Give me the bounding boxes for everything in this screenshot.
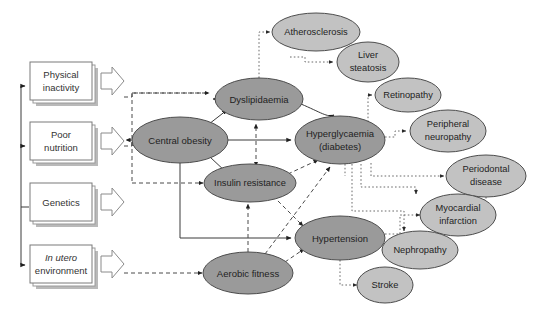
edge-insulin-resistance-to-hypertension: [273, 196, 303, 226]
node-label: Stroke: [372, 280, 399, 290]
ellipse-shape: [410, 110, 486, 152]
node-hyperglycaemia-diabetes[interactable]: Hyperglycaemia (diabetes): [295, 116, 385, 164]
risk-factor-label-line1: Genetics: [42, 197, 80, 208]
node-label-line1: Periodontal: [462, 164, 509, 174]
edge-physical-inactivity-to-dyslipidaemia: [124, 93, 210, 97]
edge-hypertension-to-stroke: [340, 260, 357, 285]
risk-factor-in-utero-environment[interactable]: In utero environment: [30, 245, 124, 289]
node-atherosclerosis[interactable]: Atherosclerosis: [272, 13, 360, 51]
node-label-line1: Liver: [358, 50, 378, 60]
node-hypertension[interactable]: Hypertension: [295, 216, 385, 260]
edge-dyslipidaemia-to-atherosclerosis: [259, 32, 270, 78]
node-retinopathy[interactable]: Retinopathy: [375, 78, 441, 112]
node-label-line1: Myocardial: [436, 203, 481, 213]
node-stroke[interactable]: Stroke: [357, 267, 413, 303]
node-label: Atherosclerosis: [284, 27, 348, 37]
node-myocardial-infarction[interactable]: Myocardial infarction: [420, 194, 496, 236]
diagram-canvas: Physical inactivity Poor nutrition Genet…: [0, 0, 536, 310]
node-label-line1: Peripheral: [427, 119, 469, 129]
risk-factor-label-line2: environment: [35, 265, 88, 276]
edge-hyperglycaemia-to-retinopathy: [368, 95, 372, 122]
node-label-line2: infarction: [439, 216, 477, 226]
edge-hyperglycaemia-to-peripheral-neuropathy: [385, 131, 406, 137]
edge-hyperglycaemia-to-myocardial-infarction: [361, 164, 416, 194]
node-liver-steatosis[interactable]: Liver steatosis: [337, 42, 399, 82]
chevron-right-icon: [101, 188, 124, 216]
node-label: Dyslipidaemia: [229, 94, 289, 105]
risk-factor-poor-nutrition[interactable]: Poor nutrition: [30, 122, 124, 166]
mediator-group: Central obesity Dyslipidaemia Insulin re…: [132, 78, 385, 294]
node-label: Aerobic fitness: [217, 268, 280, 279]
node-peripheral-neuropathy[interactable]: Peripheral neuropathy: [410, 110, 486, 152]
ellipse-shape: [420, 194, 496, 236]
chevron-right-icon: [101, 250, 124, 278]
node-label-line1: Hyperglycaemia: [306, 128, 375, 139]
chevron-right-icon: [101, 127, 124, 155]
node-label-line2: disease: [470, 177, 502, 187]
edge-dyslipidaemia-to-liver-steatosis: [290, 57, 333, 62]
risk-factor-genetics[interactable]: Genetics: [30, 183, 124, 227]
risk-factor-label-line2: nutrition: [44, 142, 78, 153]
node-label-line2: neuropathy: [425, 132, 472, 142]
node-dyslipidaemia[interactable]: Dyslipidaemia: [215, 78, 303, 120]
node-insulin-resistance[interactable]: Insulin resistance: [204, 164, 296, 202]
node-periodontal-disease[interactable]: Periodontal disease: [446, 155, 526, 197]
node-label-line2: (diabetes): [319, 141, 361, 152]
ellipse-shape: [446, 155, 526, 197]
risk-factor-label-line1: Physical: [43, 69, 78, 80]
edge-dyslipidaemia-to-hyperglycaemia: [301, 104, 334, 116]
node-label: Hypertension: [312, 233, 368, 244]
edge-aerobic-fitness-to-hypertension: [285, 249, 304, 262]
edge-insulin-resistance-to-hyperglycaemia: [288, 160, 318, 174]
risk-factor-physical-inactivity[interactable]: Physical inactivity: [30, 62, 124, 106]
chevron-right-icon: [101, 67, 124, 95]
risk-factor-group: Physical inactivity Poor nutrition Genet…: [30, 62, 124, 289]
node-aerobic-fitness[interactable]: Aerobic fitness: [203, 252, 293, 294]
risk-factor-label-line2: inactivity: [43, 82, 80, 93]
edge-poor-nutrition-to-central-obesity: [124, 140, 132, 146]
edge-hyperglycaemia-to-periodontal-disease: [371, 163, 444, 176]
node-label: Retinopathy: [383, 90, 433, 100]
ellipse-shape: [337, 42, 399, 82]
edge-left-bus-to-central-obesity: [126, 140, 132, 146]
pathway-diagram: Physical inactivity Poor nutrition Genet…: [0, 0, 536, 310]
risk-factor-label-line1: In utero: [45, 252, 77, 263]
node-central-obesity[interactable]: Central obesity: [132, 117, 228, 163]
node-nephropathy[interactable]: Nephropathy: [382, 231, 458, 269]
risk-factor-label-line1: Poor: [51, 129, 71, 140]
node-label: Nephropathy: [393, 245, 447, 255]
node-label-line2: steatosis: [350, 63, 387, 73]
node-label: Central obesity: [148, 135, 212, 146]
node-label: Insulin resistance: [214, 178, 286, 188]
